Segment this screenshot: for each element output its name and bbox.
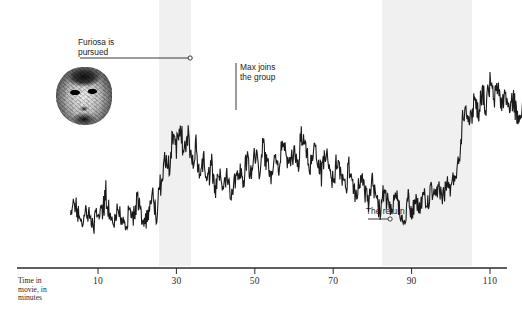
- annotation-the-return: The return: [366, 207, 405, 217]
- x-tick-label-70: 70: [328, 276, 338, 286]
- furiosa-portrait-image: [56, 67, 112, 125]
- x-tick-label-50: 50: [250, 276, 260, 286]
- x-tick-label-30: 30: [171, 276, 181, 286]
- x-tick-label-90: 90: [407, 276, 417, 286]
- leader-the-return-endpoint: [388, 217, 392, 221]
- leader-furiosa-endpoint: [188, 56, 192, 60]
- action-intensity-line: [71, 72, 522, 248]
- x-tick-label-110: 110: [483, 276, 498, 286]
- x-axis-caption: Time in movie, in minutes: [18, 277, 47, 303]
- annotation-max-joins-the-group: Max joins the group: [240, 63, 275, 82]
- x-axis-ticks: [98, 268, 490, 274]
- x-axis: [17, 268, 507, 274]
- x-tick-label-10: 10: [93, 276, 103, 286]
- chart-container: Furiosa is pursued Max joins the group T…: [0, 0, 522, 313]
- annotation-leader-lines: [80, 56, 392, 221]
- annotation-furiosa-is-pursued: Furiosa is pursued: [78, 38, 114, 57]
- axis-caption-line-3: minutes: [18, 294, 47, 303]
